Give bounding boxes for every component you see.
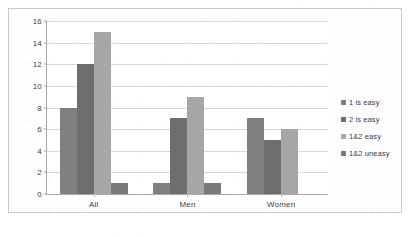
legend-swatch-icon — [341, 151, 346, 156]
x-axis-tick-mark — [94, 194, 95, 197]
legend-item[interactable]: 1&2 uneasy — [341, 146, 407, 161]
bar — [264, 140, 281, 194]
x-axis-tick-label: Men — [179, 200, 195, 209]
bar — [60, 108, 77, 195]
legend-swatch-icon — [341, 134, 346, 139]
y-axis-tick-label: 16 — [33, 17, 42, 26]
y-axis-tick-label: 8 — [37, 103, 42, 112]
legend-item-label: 1&2 uneasy — [349, 149, 390, 158]
chart-frame: 0246810121416 AllMenWomen 1 is easy2 is … — [8, 8, 402, 213]
x-axis-tick-mark — [281, 194, 282, 197]
y-axis-tick-label: 14 — [33, 38, 42, 47]
legend-swatch-icon — [341, 117, 346, 122]
bar — [281, 129, 298, 194]
legend-item-label: 2 is easy — [349, 115, 380, 124]
bar — [77, 64, 94, 194]
x-axis-tick-label: All — [89, 200, 99, 209]
legend-item-label: 1&2 easy — [349, 132, 381, 141]
chart-legend: 1 is easy2 is easy1&2 easy1&2 uneasy — [341, 95, 407, 163]
y-axis-tick-label: 0 — [37, 190, 42, 199]
legend-item-label: 1 is easy — [349, 98, 380, 107]
x-axis-tick-mark — [187, 194, 188, 197]
legend-item[interactable]: 2 is easy — [341, 112, 407, 127]
bar — [247, 118, 264, 194]
y-axis-tick-label: 4 — [37, 146, 42, 155]
bar — [187, 97, 204, 194]
bar-group: Men — [141, 21, 235, 194]
bar-group: Women — [234, 21, 328, 194]
bar-group: All — [47, 21, 141, 194]
legend-item[interactable]: 1 is easy — [341, 95, 407, 110]
legend-swatch-icon — [341, 100, 346, 105]
bar — [94, 32, 111, 194]
bar — [204, 183, 221, 194]
y-axis-tick-label: 12 — [33, 60, 42, 69]
y-axis-tick-label: 10 — [33, 81, 42, 90]
bar — [111, 183, 128, 194]
legend-item[interactable]: 1&2 easy — [341, 129, 407, 144]
bar — [170, 118, 187, 194]
x-axis-tick-label: Women — [267, 200, 295, 209]
y-axis-tick-label: 2 — [37, 168, 42, 177]
y-axis-tick-label: 6 — [37, 125, 42, 134]
plot-area: 0246810121416 AllMenWomen — [46, 21, 328, 195]
bar — [153, 183, 170, 194]
bar-groups: AllMenWomen — [47, 21, 328, 194]
